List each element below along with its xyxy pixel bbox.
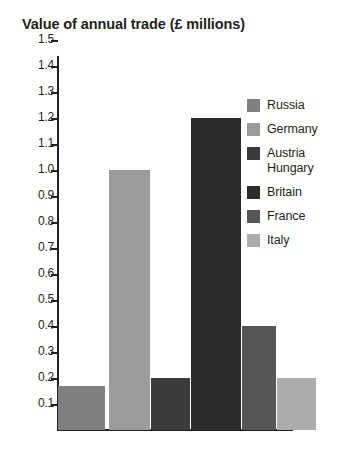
legend-item-label: Russia [267,98,305,113]
legend-item-label: Germany [267,122,318,137]
legend-swatch-icon [247,186,260,199]
legend-item-germany: Germany [247,122,348,137]
legend-item-austria: AustriaHungary [247,146,348,175]
bar-italy [277,378,316,430]
chart-legend: RussiaGermanyAustriaHungaryBritainFrance… [247,98,348,257]
legend-item-label: France [267,209,305,224]
bar-britain [191,118,241,430]
bar-austria-hungary [151,378,190,430]
bar-chart-figure: Value of annual trade (£ millions) 1.51.… [0,0,348,456]
bar-germany [109,170,150,430]
legend-item-russia: Russia [247,98,348,113]
legend-swatch-icon [247,210,260,223]
legend-item-label: Britain [267,185,302,200]
legend-item-britain: Britain [247,185,348,200]
legend-item-label: Italy [267,233,289,248]
legend-swatch-icon [247,99,260,112]
legend-swatch-icon [247,147,260,160]
legend-item-label-line2: Hungary [267,161,314,176]
bar-russia [58,386,105,430]
legend-swatch-icon [247,123,260,136]
bar-france [242,326,276,430]
legend-item-france: France [247,209,348,224]
legend-swatch-icon [247,234,260,247]
legend-item-label: AustriaHungary [267,146,314,175]
legend-item-italy: Italy [247,233,348,248]
